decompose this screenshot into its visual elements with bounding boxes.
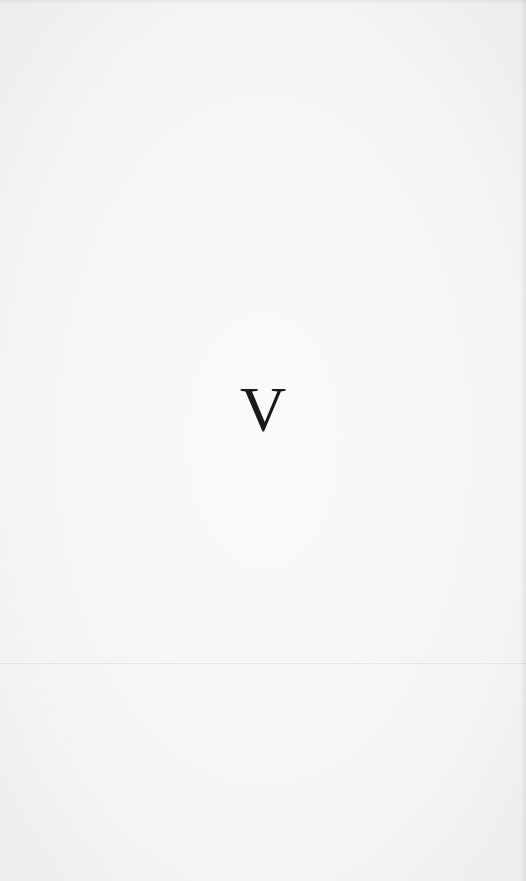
section-letter: V xyxy=(0,378,526,442)
page-top-edge-shadow xyxy=(0,0,526,4)
page-fold-line xyxy=(0,663,526,664)
scanned-page: V xyxy=(0,0,526,881)
